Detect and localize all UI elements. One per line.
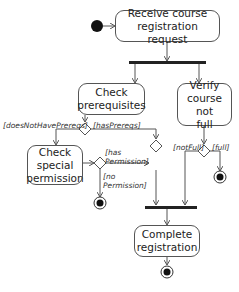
guard-does-not-have-prereqs: [doesNotHavePrereqs] xyxy=(3,121,88,130)
guard-not-full: [notFull] xyxy=(173,143,204,152)
final-node-complete xyxy=(161,266,173,278)
merge-node xyxy=(150,140,162,152)
guard-full: [full] xyxy=(212,143,229,152)
final-node-full xyxy=(214,171,226,183)
action-complete-registration: Complete registration xyxy=(134,225,200,257)
final-node-permission xyxy=(94,197,106,209)
action-receive-request: Receive course registration request xyxy=(115,10,220,42)
action-check-prerequisites: Check prerequisites xyxy=(78,83,145,115)
fork-bar xyxy=(129,61,206,64)
guard-has-permission: [has Permission] xyxy=(105,148,149,166)
guard-no-permission: [no Permission] xyxy=(103,172,147,190)
guard-has-prereqs: [hasPrereqs] xyxy=(93,121,141,130)
join-bar xyxy=(145,206,197,209)
action-verify-course: Verify course not full xyxy=(177,83,232,126)
action-check-special-permission: Check special permission xyxy=(27,145,83,185)
initial-node xyxy=(91,20,103,32)
